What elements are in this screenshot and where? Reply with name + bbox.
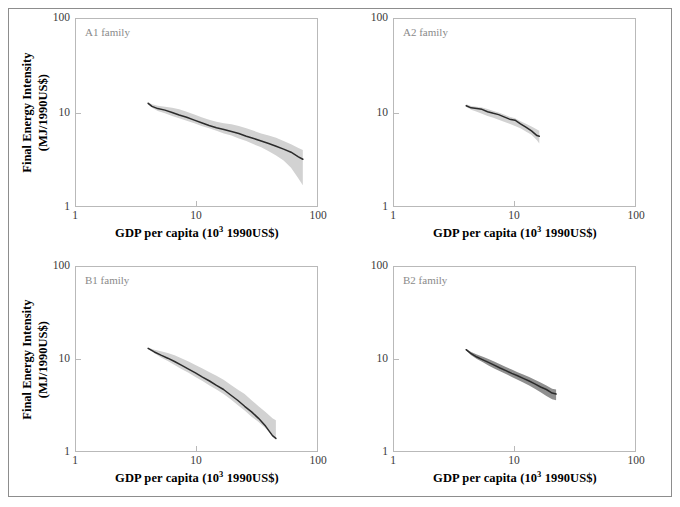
data-plot-a2	[393, 18, 636, 207]
xtick-b1-1: 1	[60, 454, 90, 466]
xtick-b2-100: 100	[621, 454, 651, 466]
xtick-b2-1: 1	[378, 454, 408, 466]
xtick-b1-10: 10	[181, 454, 211, 466]
ytick-b2-100: 100	[358, 259, 388, 271]
xtickmark-b2-10	[514, 446, 515, 452]
ytickmark-a2-10	[393, 113, 399, 114]
x-axis-title-a1: GDP per capita (103 1990US$)	[76, 226, 318, 241]
y-axis-title-b1-line2: (MJ/1990US$)	[36, 280, 52, 440]
data-plot-a1	[75, 18, 318, 207]
xtick-a1-10: 10	[181, 209, 211, 221]
ytick-a2-100: 100	[358, 11, 388, 23]
x-axis-title-a1-main: GDP per capita (10	[115, 226, 219, 240]
uncertainty-band	[148, 102, 303, 185]
x-axis-title-a2-main: GDP per capita (10	[433, 226, 537, 240]
xtick-a1-100: 100	[303, 209, 333, 221]
y-axis-title-b1-line1: Final Energy Intensity	[20, 280, 36, 440]
ytickmark-b2-10	[393, 359, 399, 360]
xtick-a2-10: 10	[499, 209, 529, 221]
ytick-a2-10: 10	[358, 106, 388, 118]
uncertainty-band	[148, 348, 276, 439]
ytick-b2-10: 10	[358, 352, 388, 364]
xtickmark-a1-10	[196, 201, 197, 207]
xtickmark-b1-10	[196, 446, 197, 452]
xtick-a2-1: 1	[378, 209, 408, 221]
x-axis-title-a2-tail: 1990US$)	[541, 226, 596, 240]
median-line	[148, 348, 276, 438]
ytick-a1-100: 100	[40, 11, 70, 23]
y-axis-title-a1: Final Energy Intensity (MJ/1990US$)	[20, 33, 51, 193]
ytick-b1-100: 100	[40, 259, 70, 271]
x-axis-title-b2-main: GDP per capita (10	[433, 471, 537, 485]
x-axis-title-b2-tail: 1990US$)	[541, 471, 596, 485]
x-axis-title-b1-tail: 1990US$)	[223, 471, 278, 485]
xtick-b1-100: 100	[303, 454, 333, 466]
x-axis-title-b1: GDP per capita (103 1990US$)	[76, 471, 318, 486]
xtick-b2-10: 10	[499, 454, 529, 466]
xtickmark-a2-10	[514, 201, 515, 207]
x-axis-title-b1-main: GDP per capita (10	[115, 471, 219, 485]
figure-root: A1 family 100 10 1 1 10 100 GDP per capi…	[0, 0, 680, 507]
x-axis-title-b2: GDP per capita (103 1990US$)	[394, 471, 636, 486]
data-plot-b1	[75, 266, 318, 452]
xtick-a1-1: 1	[60, 209, 90, 221]
ytickmark-a1-10	[75, 113, 81, 114]
y-axis-title-b1: Final Energy Intensity (MJ/1990US$)	[20, 280, 51, 440]
data-plot-b2	[393, 266, 636, 452]
y-axis-title-a1-line1: Final Energy Intensity	[20, 33, 36, 193]
y-axis-title-a1-line2: (MJ/1990US$)	[36, 33, 52, 193]
uncertainty-band	[466, 104, 539, 143]
x-axis-title-a2: GDP per capita (103 1990US$)	[394, 226, 636, 241]
xtick-a2-100: 100	[621, 209, 651, 221]
uncertainty-band	[466, 349, 556, 400]
ytickmark-b1-10	[75, 359, 81, 360]
x-axis-title-a1-tail: 1990US$)	[223, 226, 278, 240]
